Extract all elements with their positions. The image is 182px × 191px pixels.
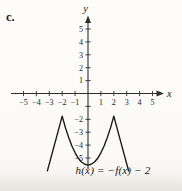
y-axis-arrow — [85, 16, 91, 24]
x-tick-label: 3 — [125, 98, 129, 107]
x-axis-arrow — [157, 91, 165, 97]
x-tick-label: −2 — [58, 98, 67, 107]
function-label: h(x) = −f(x) − 2 — [57, 164, 169, 176]
y-tick-label: −3 — [74, 128, 83, 137]
x-tick-label: −1 — [71, 98, 80, 107]
y-tick-label: −4 — [74, 141, 83, 150]
x-tick-label: 1 — [99, 98, 103, 107]
x-tick-label: 5 — [151, 98, 155, 107]
x-tick-label: 2 — [112, 98, 116, 107]
x-tick-label: 4 — [138, 98, 142, 107]
y-tick-label: 4 — [79, 38, 83, 47]
y-axis-label: y — [82, 3, 88, 14]
y-tick-label: 3 — [79, 51, 83, 60]
y-tick-label: 2 — [79, 64, 83, 73]
y-tick-label: 5 — [79, 25, 83, 34]
x-tick-label: −3 — [45, 98, 54, 107]
y-tick-label: 1 — [79, 76, 83, 85]
y-tick-label: −2 — [74, 115, 83, 124]
x-tick-label: −4 — [32, 98, 41, 107]
x-axis-label: x — [166, 88, 172, 99]
graph-svg: xy−5−4−3−2−112345−5−4−3−212345 — [0, 0, 182, 191]
x-tick-label: −5 — [19, 98, 28, 107]
textbook-figure: c. xy−5−4−3−2−112345−5−4−3−212345 h(x) =… — [0, 0, 182, 191]
